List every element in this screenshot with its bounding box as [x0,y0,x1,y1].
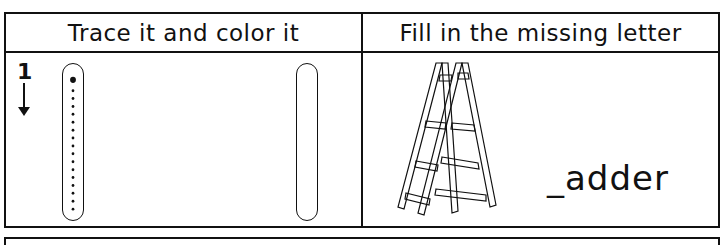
worksheet: Trace it and color it Fill in the missin… [4,12,720,228]
traced-letter-l[interactable] [62,63,84,221]
next-section-box [4,237,720,245]
header-row: Trace it and color it Fill in the missin… [6,14,718,53]
color-letter-l[interactable] [296,63,318,221]
dotted-guide-icon [63,64,83,220]
missing-letter-word: _adder [547,158,669,198]
body-row: 1 [6,53,718,226]
down-arrow-icon [18,83,30,117]
stroke-number: 1 [17,61,32,83]
fill-header: Fill in the missing letter [363,14,718,51]
trace-area: 1 [6,53,363,226]
trace-header: Trace it and color it [6,14,363,51]
ladder-icon [396,61,506,221]
missing-letter-area: _adder [363,53,718,226]
